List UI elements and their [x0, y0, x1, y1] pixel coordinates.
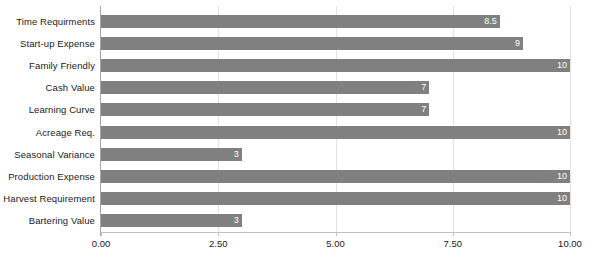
bar-series: 8.5 9 10 7 7: [101, 10, 570, 232]
category-axis-label: Learning Curve: [29, 104, 98, 115]
value-axis-tick: [218, 232, 219, 236]
category-axis-row: Learning Curve: [0, 99, 98, 121]
value-axis-tick-label: 7.50: [444, 238, 463, 249]
category-axis-label: Start-up Expense: [20, 38, 98, 49]
category-axis-label: Seasonal Variance: [14, 149, 98, 160]
bar-row: 8.5: [101, 10, 570, 32]
bar: 10: [101, 126, 570, 139]
category-axis-row: Seasonal Variance: [0, 143, 98, 165]
bar-row: 10: [101, 121, 570, 143]
bar-row: 7: [101, 99, 570, 121]
category-axis-label: Family Friendly: [29, 60, 98, 71]
plot-area: 8.5 9 10 7 7: [101, 10, 570, 232]
bar: 8.5: [101, 15, 500, 28]
category-axis-row: Family Friendly: [0, 54, 98, 76]
category-axis-label: Harvest Requirement: [3, 193, 98, 204]
category-axis-label: Time Requirments: [16, 16, 98, 27]
bar: 10: [101, 170, 570, 183]
bar-row: 3: [101, 143, 570, 165]
bar: 10: [101, 192, 570, 205]
value-axis-tick-label: 0.00: [92, 238, 111, 249]
value-axis-tick: [336, 232, 337, 236]
category-axis-label: Cash Value: [46, 82, 98, 93]
bar-value-label: 10: [557, 172, 570, 181]
bar-chart: Time Requirments Start-up Expense Family…: [0, 0, 600, 257]
value-axis-tick: [570, 232, 571, 236]
bar-value-label: 10: [557, 194, 570, 203]
bar-value-label: 8.5: [484, 17, 500, 26]
bar-value-label: 10: [557, 61, 570, 70]
bar: 3: [101, 214, 242, 227]
bar: 10: [101, 59, 570, 72]
category-axis-row: Acreage Req.: [0, 121, 98, 143]
value-axis-tick-label: 5.00: [326, 238, 345, 249]
bar: 3: [101, 148, 242, 161]
bar-value-label: 3: [234, 216, 242, 225]
category-axis-row: Production Expense: [0, 165, 98, 187]
bar-row: 10: [101, 188, 570, 210]
category-axis-label: Acreage Req.: [36, 127, 98, 138]
value-axis-tick-label: 10.00: [558, 238, 582, 249]
bar-row: 10: [101, 165, 570, 187]
category-axis-row: Bartering Value: [0, 210, 98, 232]
bar-row: 9: [101, 32, 570, 54]
bar: 9: [101, 37, 523, 50]
category-axis-label: Bartering Value: [29, 215, 98, 226]
category-axis: Time Requirments Start-up Expense Family…: [0, 10, 98, 232]
value-axis: 0.002.505.007.5010.00: [101, 232, 570, 254]
bar-value-label: 10: [557, 128, 570, 137]
value-axis-tick: [101, 232, 102, 236]
bar-value-label: 7: [421, 83, 429, 92]
bar: 7: [101, 81, 429, 94]
gridline: [570, 6, 571, 236]
category-axis-row: Cash Value: [0, 77, 98, 99]
bar-row: 7: [101, 77, 570, 99]
value-axis-tick: [453, 232, 454, 236]
bar: 7: [101, 103, 429, 116]
bar-row: 10: [101, 54, 570, 76]
bar-value-label: 3: [234, 150, 242, 159]
category-axis-row: Start-up Expense: [0, 32, 98, 54]
bar-row: 3: [101, 210, 570, 232]
value-axis-tick-label: 2.50: [209, 238, 228, 249]
bar-value-label: 9: [515, 39, 523, 48]
bar-value-label: 7: [421, 105, 429, 114]
category-axis-label: Production Expense: [8, 171, 98, 182]
category-axis-row: Time Requirments: [0, 10, 98, 32]
category-axis-row: Harvest Requirement: [0, 188, 98, 210]
